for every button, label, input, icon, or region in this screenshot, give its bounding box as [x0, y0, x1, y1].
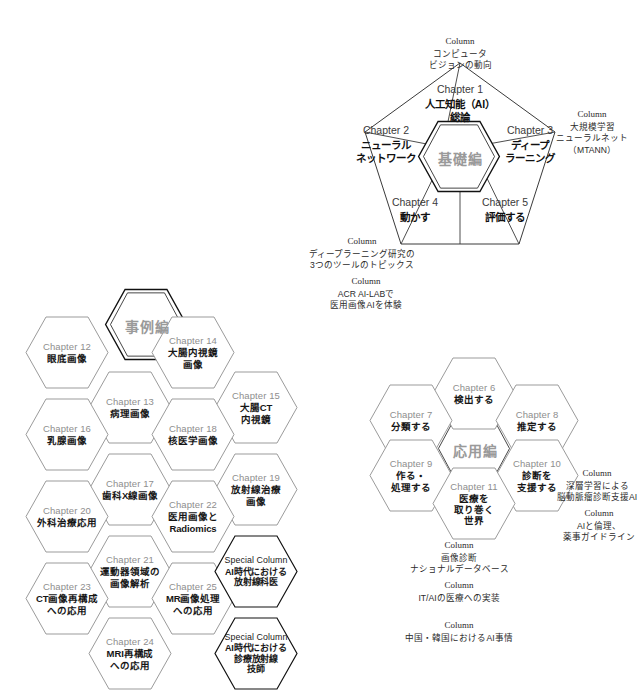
- pentagon-sector-chapter-1[interactable]: Chapter 1 人工知能（AI） 総論: [402, 83, 518, 123]
- chapter-name: 推定する: [516, 421, 559, 432]
- special-column-label: Special Column: [224, 632, 287, 642]
- chapter-number: Chapter 12: [43, 341, 91, 352]
- pentagon-sector-chapter-3[interactable]: Chapter 3 ディープ ラーニング: [482, 124, 578, 164]
- chapter-number: Chapter 14: [168, 335, 218, 346]
- pentagon-sector-chapter-5[interactable]: Chapter 5 評価する: [462, 196, 548, 224]
- chapter-number: Chapter 21: [100, 554, 159, 565]
- sector-name: ディープ ラーニング: [482, 139, 578, 165]
- chapter-name: 検出する: [453, 394, 496, 405]
- column-note-head: Column: [376, 620, 542, 632]
- hex-chapter-11[interactable]: Chapter 11 医療を 取り巻く 世界: [432, 467, 516, 540]
- core-label-application: 応用編: [453, 440, 498, 460]
- chapter-name: 放射線治療 画像: [231, 484, 281, 506]
- chapter-name: 核医学画像: [168, 435, 218, 446]
- chapter-name: 歯科X線画像: [102, 490, 158, 501]
- core-label-foundation: 基礎編: [438, 148, 483, 168]
- chapter-number: Chapter 9: [390, 458, 433, 469]
- sector-num: Chapter 5: [462, 196, 548, 209]
- sector-name: 評価する: [462, 211, 548, 224]
- chapter-name: 医療を 取り巻く 世界: [450, 493, 497, 527]
- column-note-national-database: Column 画像診断 ナショナルデータベース: [384, 540, 534, 576]
- chapter-number: Chapter 23: [36, 581, 98, 592]
- chapter-name: 病理画像: [106, 408, 154, 419]
- chapter-name: MRI再構成 への応用: [106, 648, 154, 670]
- column-note-ai-ethics: Column AIと倫理、 薬事ガイドライン: [556, 508, 642, 544]
- chapter-name: 分類する: [390, 421, 433, 432]
- sector-num: Chapter 3: [482, 124, 578, 137]
- chapter-number: Chapter 11: [450, 481, 497, 492]
- column-note-china-korea-ai: Column 中国・韓国におけるAI事情: [376, 620, 542, 644]
- core-label-case-study: 事例編: [125, 316, 170, 336]
- diagram-canvas: 基礎編 Chapter 1 人工知能（AI） 総論 Chapter 2 ニューラ…: [0, 0, 642, 691]
- chapter-name: 外科治療応用: [37, 517, 96, 528]
- pentagon-sector-chapter-4[interactable]: Chapter 4 動かす: [372, 196, 458, 224]
- chapter-name: 診断を 支援する: [513, 470, 561, 492]
- chapter-number: Chapter 19: [231, 472, 281, 483]
- column-note-body: AIと倫理、 薬事ガイドライン: [556, 521, 642, 544]
- sector-name: 動かす: [372, 211, 458, 224]
- column-note-head: Column: [556, 508, 642, 520]
- chapter-name: 乳腺画像: [43, 435, 91, 446]
- chapter-number: Chapter 16: [43, 423, 91, 434]
- chapter-number: Chapter 8: [516, 409, 559, 420]
- chapter-number: Chapter 15: [232, 390, 280, 401]
- chapter-name: MR画像処理 への応用: [166, 593, 220, 615]
- column-note-head: Column: [384, 540, 534, 552]
- chapter-name: 作る・ 処理する: [390, 470, 433, 492]
- chapter-name: 医用画像と Radiomics: [168, 511, 218, 533]
- chapter-name: 運動器領域の 画像解析: [100, 566, 159, 588]
- sector-name: 人工知能（AI） 総論: [402, 98, 518, 124]
- chapter-number: Chapter 25: [166, 581, 220, 592]
- column-note-head: Column: [384, 580, 534, 592]
- chapter-name: CT画像再構成 への応用: [36, 593, 98, 615]
- chapter-number: Chapter 13: [106, 396, 154, 407]
- chapter-name: 眼底画像: [43, 353, 91, 364]
- sector-name: ニューラル ネットワーク: [334, 139, 438, 165]
- sector-num: Chapter 1: [402, 83, 518, 96]
- column-note-body: 中国・韓国におけるAI事情: [376, 633, 542, 644]
- chapter-name: 大腸CT 内視鏡: [232, 402, 280, 424]
- chapter-number: Chapter 10: [513, 458, 561, 469]
- chapter-name: 大腸内視鏡 画像: [168, 347, 218, 369]
- chapter-number: Chapter 6: [453, 382, 496, 393]
- column-note-it-ai-implementation: Column IT/AIの医療への実装: [384, 580, 534, 604]
- chapter-number: Chapter 17: [102, 478, 158, 489]
- column-note-body: IT/AIの医療への実装: [384, 593, 534, 604]
- special-column-label: Special Column: [224, 555, 287, 565]
- sector-num: Chapter 4: [372, 196, 458, 209]
- chapter-number: Chapter 22: [168, 499, 218, 510]
- special-column-name: AI時代における 診療放射線 技師: [224, 643, 287, 675]
- pentagon-sector-chapter-2[interactable]: Chapter 2 ニューラル ネットワーク: [334, 124, 438, 164]
- column-note-body: 画像診断 ナショナルデータベース: [384, 553, 534, 576]
- chapter-number: Chapter 18: [168, 423, 218, 434]
- chapter-number: Chapter 24: [106, 636, 154, 647]
- special-column-name: AI時代における 放射線科医: [224, 567, 287, 588]
- sector-num: Chapter 2: [334, 124, 438, 137]
- chapter-number: Chapter 7: [390, 409, 433, 420]
- chapter-number: Chapter 20: [37, 505, 96, 516]
